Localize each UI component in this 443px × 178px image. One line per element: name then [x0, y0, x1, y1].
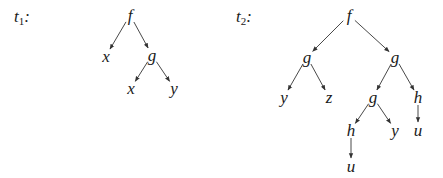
- node-h: h: [347, 122, 356, 139]
- node-g: g: [391, 49, 400, 66]
- edge-arrow: [288, 64, 303, 90]
- edge-arrow: [110, 22, 126, 49]
- node-f: f: [347, 7, 352, 24]
- edge-arrow: [311, 64, 325, 90]
- node-u: u: [347, 158, 356, 175]
- tree-label-t1: t1:: [14, 8, 30, 27]
- node-g: g: [303, 49, 312, 66]
- edge-arrow: [377, 64, 391, 90]
- node-h: h: [414, 89, 423, 106]
- tree-label-t2: t2:: [236, 8, 252, 27]
- edge-arrow: [134, 22, 148, 48]
- node-z: z: [326, 89, 333, 106]
- edge-arrow: [355, 104, 368, 124]
- node-y: y: [391, 122, 399, 139]
- node-f: f: [128, 7, 133, 24]
- node-g: g: [148, 47, 157, 64]
- node-u: u: [414, 122, 423, 139]
- node-y: y: [280, 89, 288, 106]
- tree-label-colon: :: [246, 7, 252, 26]
- edge-arrow: [313, 21, 344, 52]
- edge-arrow: [135, 62, 147, 82]
- tree-label-colon: :: [24, 7, 30, 26]
- edge-arrow: [156, 62, 169, 82]
- node-g: g: [369, 89, 378, 106]
- edge-arrow: [355, 20, 389, 51]
- node-y: y: [170, 80, 178, 97]
- edge-arrow: [399, 64, 414, 90]
- node-x: x: [127, 80, 135, 97]
- edge-arrow: [377, 104, 390, 124]
- node-x: x: [102, 48, 110, 65]
